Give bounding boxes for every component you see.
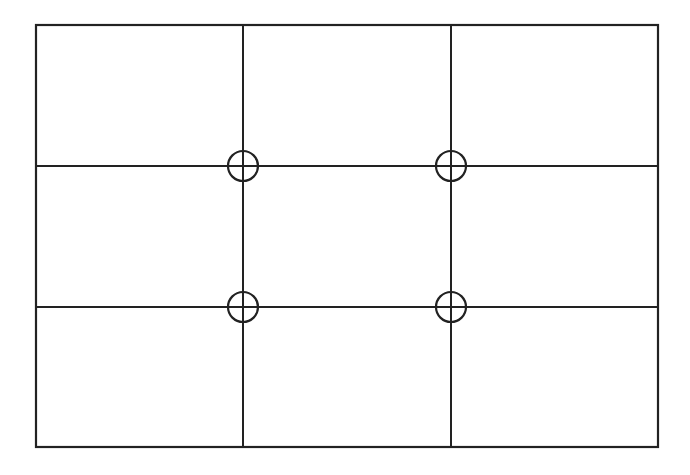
outer-frame [36,25,658,447]
rule-of-thirds-diagram [0,0,690,475]
